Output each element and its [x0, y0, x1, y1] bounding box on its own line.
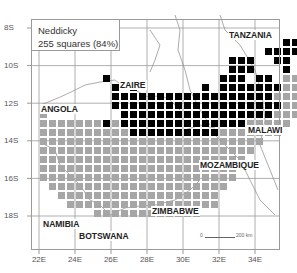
lon-label-24e: 24E — [63, 255, 87, 264]
label-botswana: BOTSWANA — [78, 231, 130, 241]
lon-label-28e: 28E — [135, 255, 159, 264]
scale-line — [205, 237, 235, 238]
coverage-summary: 255 squares (84%) — [38, 37, 119, 50]
lat-label-14s: 14S — [4, 136, 28, 145]
label-mozambique: MOZAMBIQUE — [199, 160, 260, 170]
species-name: Neddicky — [38, 24, 119, 37]
lon-label-30e: 30E — [171, 255, 195, 264]
lat-label-8s: 8S — [4, 23, 28, 32]
distribution-map: Neddicky 255 squares (84%) 8S 10S 12S 14… — [0, 0, 297, 273]
label-angola: ANGOLA — [40, 104, 79, 114]
label-malawi: MALAWI — [247, 125, 283, 135]
lat-label-16s: 16S — [4, 174, 28, 183]
scale-start: 0 — [200, 232, 203, 238]
lon-label-22e: 22E — [27, 255, 51, 264]
lat-label-18s: 18S — [4, 211, 28, 220]
lon-label-26e: 26E — [99, 255, 123, 264]
label-zimbabwe: ZIMBABWE — [151, 206, 200, 216]
legend-box: Neddicky 255 squares (84%) — [31, 19, 120, 51]
label-tanzania: TANZANIA — [228, 30, 273, 40]
lon-label-32e: 32E — [207, 255, 231, 264]
scale-end: 200 km — [236, 232, 252, 238]
label-namibia: NAMIBIA — [42, 219, 80, 229]
label-zaire: ZAIRE — [119, 80, 147, 90]
lon-label-34e: 34E — [243, 255, 267, 264]
lat-label-10s: 10S — [4, 61, 28, 70]
lat-label-12s: 12S — [4, 99, 28, 108]
